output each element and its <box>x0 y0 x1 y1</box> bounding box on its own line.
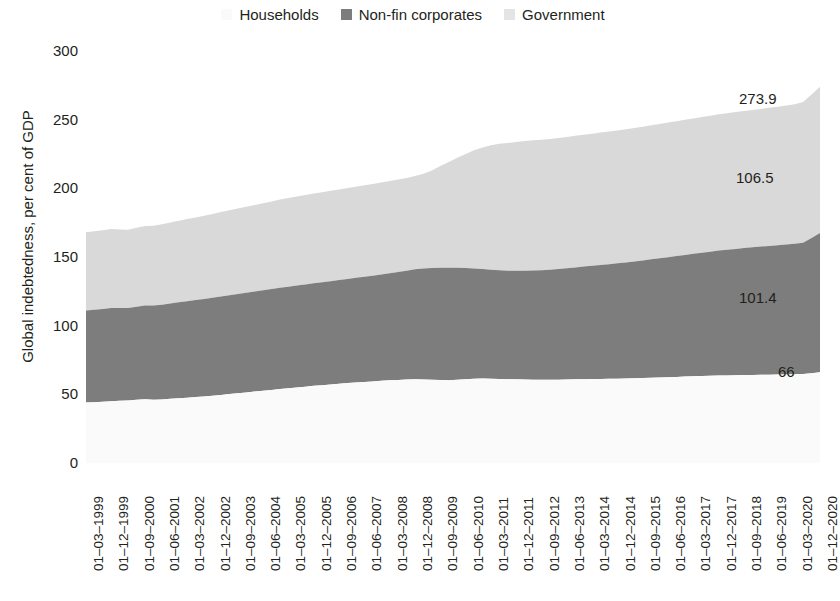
x-tick-label: 01–06–2004 <box>268 496 283 571</box>
x-tick-label: 01–06–2007 <box>369 496 384 571</box>
x-tick-label: 01–03–2014 <box>597 496 612 571</box>
x-tick-label: 01–06–2016 <box>673 496 688 571</box>
x-tick-label: 01–03–2011 <box>496 497 511 571</box>
x-tick-label: 01–09–2018 <box>749 496 764 571</box>
x-tick-label: 01–03–1999 <box>91 496 106 571</box>
x-tick-label: 01–12–2005 <box>319 496 334 571</box>
x-tick-label: 01–09–2009 <box>445 496 460 571</box>
x-tick-label: 01–09–2006 <box>344 496 359 571</box>
x-tick-label: 01–12–2011 <box>521 497 536 571</box>
x-tick-label: 01–09–2000 <box>142 496 157 571</box>
x-tick-label: 01–03–2020 <box>800 496 815 571</box>
x-tick-label: 01–09–2012 <box>547 496 562 571</box>
x-tick-label: 01–09–2003 <box>243 496 258 571</box>
x-tick-label: 01–09–2015 <box>648 496 663 571</box>
x-tick-label: 01–06–2010 <box>471 496 486 571</box>
x-tick-label: 01–12–2020 <box>825 496 840 571</box>
x-tick-label: 01–03–2005 <box>293 496 308 571</box>
x-tick-label: 01–12–2008 <box>420 496 435 571</box>
x-tick-label: 01–06–2013 <box>572 496 587 571</box>
x-tick-label: 01–12–2002 <box>218 496 233 571</box>
x-tick-label: 01–12–1999 <box>116 496 131 571</box>
x-tick-label: 01–06–2001 <box>167 496 182 571</box>
x-tick-label: 01–03–2002 <box>192 496 207 571</box>
x-tick-label: 01–03–2017 <box>698 496 713 571</box>
x-tick-label: 01–06–2019 <box>774 496 789 571</box>
x-tick-label: 01–03–2008 <box>395 496 410 571</box>
x-tick-label: 01–12–2014 <box>623 496 638 571</box>
x-tick-label: 01–12–2017 <box>724 496 739 571</box>
